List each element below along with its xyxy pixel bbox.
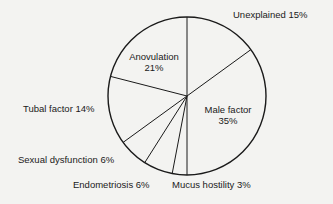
slice-divider-anovulation (111, 76, 188, 96)
pie-chart (0, 0, 333, 204)
label-male-factor-name: Male factor (203, 104, 253, 115)
label-male-factor: Male factor 35% (203, 104, 253, 126)
label-endometriosis: Endometriosis 6% (73, 179, 150, 190)
label-anovulation-value: 21% (124, 62, 184, 73)
label-male-factor-value: 35% (203, 115, 253, 126)
label-mucus-hostility: Mucus hostility 3% (172, 179, 251, 190)
label-anovulation: Anovulation 21% (124, 51, 184, 73)
slice-divider-male-factor (187, 50, 251, 96)
label-anovulation-name: Anovulation (124, 51, 184, 62)
label-tubal-factor: Tubal factor 14% (23, 103, 94, 114)
label-sexual-dysfunction: Sexual dysfunction 6% (18, 154, 114, 165)
label-unexplained: Unexplained 15% (233, 9, 307, 20)
slice-divider-tubal-factor (123, 96, 187, 142)
